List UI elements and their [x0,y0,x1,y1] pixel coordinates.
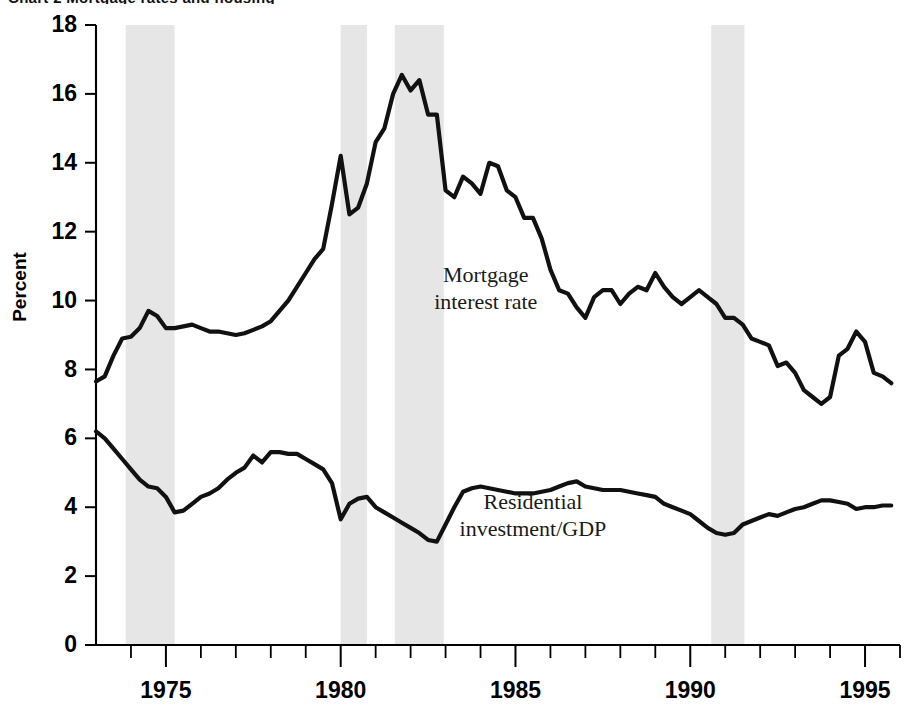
x-tick-label: 1995 [839,677,890,703]
annotation-line: investment/GDP [460,516,607,541]
cropped-header-strip: Chart 2 Mortgage rates and housing [0,0,912,4]
mortgage-label: Mortgageinterest rate [434,262,537,314]
annotation-line: interest rate [434,289,537,314]
annotation-line: Mortgage [443,262,529,287]
x-axis-ticks: 19751980198519901995 [131,645,900,703]
y-axis-ticks: 024681012141618 [51,11,96,657]
y-tick-label: 2 [64,562,77,588]
recession-band [341,25,367,645]
x-tick-label: 1975 [140,677,191,703]
x-tick-label: 1985 [490,677,541,703]
cropped-header-text: Chart 2 Mortgage rates and housing [8,0,275,4]
line-chart-canvas: 024681012141618 19751980198519901995 Mor… [0,0,912,705]
series-line-mortgage-interest-rate [96,75,891,404]
y-tick-label: 10 [51,287,77,313]
recession-bands-layer [126,25,745,645]
y-axis-title-group: Percent [9,251,30,321]
y-axis-title: Percent [9,251,30,321]
axes-layer [96,25,900,645]
y-tick-label: 14 [51,149,77,175]
y-tick-label: 16 [51,80,77,106]
y-tick-label: 12 [51,218,77,244]
y-tick-label: 4 [64,493,77,519]
y-tick-label: 8 [64,356,77,382]
y-tick-label: 6 [64,424,77,450]
x-tick-label: 1980 [315,677,366,703]
y-tick-label: 0 [64,631,77,657]
recession-band [711,25,744,645]
y-tick-label: 18 [51,11,77,37]
x-tick-label: 1990 [665,677,716,703]
residential-label: Residentialinvestment/GDP [460,489,607,541]
annotation-line: Residential [483,489,582,514]
chart-figure: Chart 2 Mortgage rates and housing 02468… [0,0,912,705]
